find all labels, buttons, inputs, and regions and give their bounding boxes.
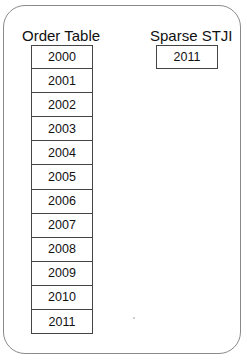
order-table: 2000 2001 2002 2003 2004 2005 2006 2007 … (31, 45, 93, 334)
order-table-cell: 2002 (31, 93, 93, 117)
sparse-stji-cell: 2011 (156, 45, 218, 69)
order-table-cell: 2000 (31, 45, 93, 69)
order-table-cell: 2006 (31, 190, 93, 214)
order-table-cell: 2010 (31, 286, 93, 310)
order-table-title: Order Table (22, 27, 100, 44)
order-table-cell: 2001 (31, 69, 93, 93)
order-table-cell: 2008 (31, 238, 93, 262)
order-table-cell: 2003 (31, 117, 93, 141)
order-table-cell: 2004 (31, 141, 93, 165)
speck (133, 317, 135, 319)
order-table-cell: 2005 (31, 165, 93, 189)
order-table-cell: 2009 (31, 262, 93, 286)
order-table-cell: 2011 (31, 310, 93, 334)
sparse-stji-title: Sparse STJI (150, 27, 233, 44)
order-table-cell: 2007 (31, 214, 93, 238)
